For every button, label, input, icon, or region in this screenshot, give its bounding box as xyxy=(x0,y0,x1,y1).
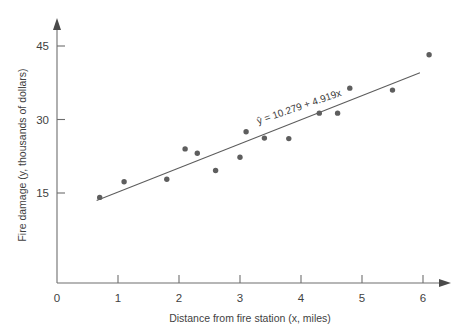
data-point xyxy=(262,135,267,140)
data-point xyxy=(237,155,242,160)
y-tick-group: 153045 xyxy=(36,40,65,199)
x-tick-label: 6 xyxy=(420,292,426,304)
data-point xyxy=(97,195,102,200)
x-tick-label: 4 xyxy=(298,292,305,304)
scatter-plot-figure: 153045 0123456 ŷ = 10.279 + 4.919x Dista… xyxy=(0,0,466,336)
x-tick-label: 1 xyxy=(115,292,121,304)
y-tick-label: 15 xyxy=(36,187,49,199)
plot-canvas: 153045 0123456 ŷ = 10.279 + 4.919x Dista… xyxy=(0,0,466,336)
x-axis xyxy=(57,279,451,287)
data-point xyxy=(164,177,169,182)
y-axis-title: Fire damage (y, thousands of dollars) xyxy=(16,68,28,241)
regression-line-group xyxy=(97,73,420,201)
y-tick-label: 45 xyxy=(36,40,49,52)
data-point xyxy=(182,146,187,151)
y-tick-label: 30 xyxy=(36,114,49,126)
data-point xyxy=(286,136,291,141)
data-points-group xyxy=(97,52,432,200)
data-point xyxy=(390,87,395,92)
x-tick-label: 3 xyxy=(237,292,243,304)
x-tick-label: 5 xyxy=(359,292,365,304)
data-point xyxy=(243,129,248,134)
x-tick-group: 0123456 xyxy=(54,275,426,304)
data-point xyxy=(213,168,218,173)
x-axis-title: Distance from fire station (x, miles) xyxy=(169,312,331,324)
y-axis-arrowhead xyxy=(53,18,61,30)
data-point xyxy=(335,110,340,115)
regression-line xyxy=(97,73,420,201)
data-point xyxy=(195,151,200,156)
y-axis xyxy=(53,18,61,283)
x-tick-label: 2 xyxy=(176,292,182,304)
x-tick-label: 0 xyxy=(54,292,60,304)
x-axis-arrowhead xyxy=(439,279,451,287)
data-point xyxy=(317,110,322,115)
data-point xyxy=(347,85,352,90)
data-point xyxy=(121,179,126,184)
data-point xyxy=(426,52,431,57)
